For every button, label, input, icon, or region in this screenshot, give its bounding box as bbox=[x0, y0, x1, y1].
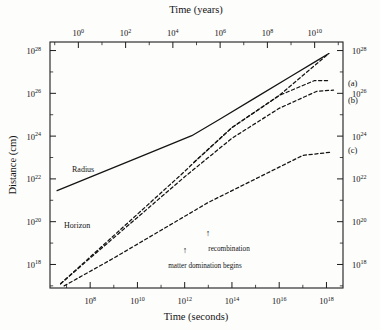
series-group bbox=[57, 54, 333, 286]
figure-container: 10810101012101410161018 Time (seconds) 1… bbox=[0, 0, 380, 330]
tick-label: 106 bbox=[214, 28, 226, 38]
tick-label: 1016 bbox=[272, 296, 287, 306]
series-a-curve bbox=[194, 81, 329, 163]
tick-label: 1024 bbox=[352, 131, 367, 141]
tick-label: 1018 bbox=[319, 296, 334, 306]
tick-label: 104 bbox=[167, 28, 179, 38]
left-axis-title: Distance (cm) bbox=[7, 135, 19, 195]
tick-label: 1014 bbox=[225, 296, 240, 306]
bottom-axis-ticklabels: 10810101012101410161018 bbox=[84, 296, 333, 306]
matter-domination-arrow-icon: ↑ bbox=[183, 245, 188, 255]
curve-a-label: (a) bbox=[348, 78, 358, 88]
top-axis-ticklabels: 1001021041061081010 bbox=[73, 28, 322, 38]
tick-label: 1018 bbox=[352, 259, 367, 269]
tick-label: 1018 bbox=[27, 259, 42, 269]
tick-label: 1028 bbox=[352, 46, 367, 56]
tick-label: 1010 bbox=[307, 28, 322, 38]
tick-label: 1022 bbox=[27, 174, 42, 184]
recombination-arrow-icon: ↑ bbox=[206, 228, 211, 238]
radius-label: Radius bbox=[72, 165, 94, 174]
left-axis-ticks bbox=[50, 51, 56, 286]
bottom-axis-ticks bbox=[67, 282, 327, 288]
recombination-label: recombination bbox=[208, 245, 250, 253]
tick-label: 1026 bbox=[27, 88, 42, 98]
tick-label: 1028 bbox=[27, 46, 42, 56]
tick-label: 1024 bbox=[27, 131, 42, 141]
tick-label: 1020 bbox=[27, 217, 42, 227]
right-axis-ticks bbox=[337, 51, 343, 286]
horizon-label: Horizon bbox=[64, 221, 90, 230]
chart-svg: 10810101012101410161018 Time (seconds) 1… bbox=[0, 0, 380, 330]
series-b-curve bbox=[61, 90, 334, 284]
tick-label: 1020 bbox=[352, 217, 367, 227]
matter-domination-label: matter domination begins bbox=[168, 262, 242, 270]
tick-label: 1022 bbox=[352, 174, 367, 184]
tick-label: 1010 bbox=[130, 296, 145, 306]
tick-label: 108 bbox=[262, 28, 274, 38]
left-axis-ticklabels: 101810201022102410261028 bbox=[27, 46, 42, 270]
curve-c-label: (c) bbox=[348, 145, 358, 155]
bottom-axis-title: Time (seconds) bbox=[164, 311, 229, 323]
top-axis-ticks bbox=[55, 42, 339, 48]
top-axis-title: Time (years) bbox=[169, 4, 223, 16]
curve-b-label: (b) bbox=[348, 95, 358, 105]
tick-label: 1012 bbox=[177, 296, 192, 306]
tick-label: 102 bbox=[120, 28, 132, 38]
tick-label: 100 bbox=[73, 28, 85, 38]
tick-label: 108 bbox=[84, 296, 96, 306]
